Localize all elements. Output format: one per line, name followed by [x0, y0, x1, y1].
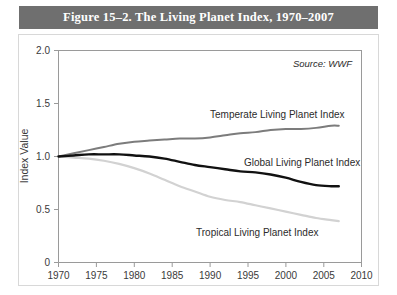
y-tick-label-3: 1.5 — [36, 98, 50, 109]
series-line-temperate — [59, 126, 339, 157]
y-tick-label-2: 1.0 — [36, 151, 50, 162]
x-tick-label-3: 1985 — [161, 270, 184, 281]
y-tick-label-1: 0.5 — [36, 204, 50, 215]
y-tick-label-4: 2.0 — [36, 45, 50, 56]
series-label-temperate: Temperate Living Planet Index — [210, 109, 345, 120]
x-tick-label-4: 1990 — [199, 270, 222, 281]
x-axis-tick-labels: 1970 1975 1980 1985 1990 1995 2000 2005 … — [47, 270, 373, 281]
x-tick-label-7: 2005 — [313, 270, 336, 281]
y-tick-label-0: 0 — [44, 257, 50, 268]
x-tick-label-0: 1970 — [47, 270, 70, 281]
x-tick-label-2: 1980 — [123, 270, 146, 281]
x-tick-label-5: 1995 — [237, 270, 260, 281]
x-tick-label-8: 2010 — [350, 270, 373, 281]
series-label-tropical: Tropical Living Planet Index — [196, 227, 318, 238]
x-axis-ticks — [59, 263, 362, 268]
y-axis-tick-labels: 0 0.5 1.0 1.5 2.0 — [36, 45, 50, 268]
series-label-global: Global Living Planet Index — [244, 157, 360, 168]
line-chart: 0 0.5 1.0 1.5 2.0 Index Value 1970 1975 … — [0, 0, 397, 295]
x-tick-label-1: 1975 — [85, 270, 108, 281]
x-tick-label-6: 2000 — [275, 270, 298, 281]
figure-container: Figure 15–2. The Living Planet Index, 19… — [0, 0, 397, 295]
source-annotation: Source: WWF — [293, 58, 353, 69]
y-axis-title: Index Value — [18, 129, 30, 184]
